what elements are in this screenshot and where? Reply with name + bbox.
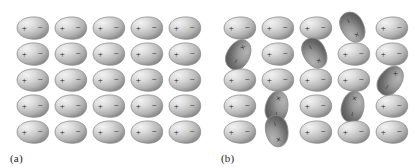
dipole-a-r3c1: +− — [53, 94, 87, 118]
figure-dipole-alignment: +−+−+−+−+−+−+−+−+−+−+−+−+−+−+−+−+−+−+−+−… — [0, 0, 415, 168]
dipole-grid-b: +−+−+−×−+−×−+−×−+−+−+−+−+−+−×−+−×−+−×−+−… — [207, 0, 415, 143]
dipole-positive-charge-sign: + — [22, 101, 27, 111]
dipole-positive-charge-sign: + — [305, 127, 310, 137]
dipole-b-r2c3: +− — [336, 68, 370, 92]
dipole-negative-charge-sign: − — [245, 100, 250, 110]
dipole-b-r1c0: ×− — [222, 42, 256, 66]
dipole-b-r3c3: ×− — [336, 94, 370, 118]
panel-b-random-dipoles: +−+−+−×−+−×−+−×−+−+−+−+−+−+−×−+−×−+−×−+−… — [207, 0, 415, 168]
dipole-b-r1c4: +− — [374, 42, 408, 66]
dipole-positive-charge-sign: + — [98, 127, 103, 137]
dipole-negative-charge-sign: − — [76, 126, 81, 136]
dipole-b-r3c0: +− — [222, 94, 256, 118]
dipole-a-r2c1: +− — [53, 68, 87, 92]
dipole-positive-charge-sign: + — [343, 49, 348, 59]
dipole-negative-charge-sign: − — [38, 100, 43, 110]
dipole-positive-charge-sign: + — [305, 23, 310, 33]
dipole-b-r0c2: +− — [298, 16, 332, 40]
dipole-negative-charge-sign: − — [190, 74, 195, 84]
dipole-a-r0c0: +− — [15, 16, 49, 40]
dipole-positive-charge-sign: + — [267, 49, 272, 59]
dipole-a-r4c1: +− — [53, 120, 87, 144]
dipole-positive-charge-sign: + — [174, 101, 179, 111]
dipole-positive-charge-sign: + — [98, 75, 103, 85]
dipole-a-r3c0: +− — [15, 94, 49, 118]
dipole-positive-charge-sign: + — [60, 127, 65, 137]
dipole-negative-charge-sign: − — [359, 74, 364, 84]
dipole-positive-charge-sign: + — [174, 49, 179, 59]
panel-label-a: (a) — [10, 152, 23, 164]
dipole-b-r4c0: +− — [222, 120, 256, 144]
dipole-negative-charge-sign: − — [397, 48, 402, 58]
dipole-b-r3c4: +− — [374, 94, 408, 118]
dipole-a-r1c1: +− — [53, 42, 87, 66]
dipole-a-r2c4: +− — [167, 68, 201, 92]
dipole-negative-charge-sign: − — [283, 48, 288, 58]
dipole-grid-a: +−+−+−+−+−+−+−+−+−+−+−+−+−+−+−+−+−+−+−+−… — [0, 0, 207, 143]
dipole-negative-charge-sign: − — [190, 126, 195, 136]
dipole-a-r2c0: +− — [15, 68, 49, 92]
dipole-negative-charge-sign: − — [114, 100, 119, 110]
dipole-negative-charge-sign: − — [114, 22, 119, 32]
dipole-b-r0c3: ×− — [336, 16, 370, 40]
dipole-a-r4c2: +− — [91, 120, 125, 144]
dipole-positive-charge-sign: + — [136, 127, 141, 137]
dipole-negative-charge-sign: − — [76, 100, 81, 110]
dipole-b-r1c1: +− — [260, 42, 294, 66]
dipole-a-r0c2: +− — [91, 16, 125, 40]
dipole-positive-charge-sign: + — [381, 101, 386, 111]
dipole-b-r3c2: +− — [298, 94, 332, 118]
dipole-negative-charge-sign: − — [114, 48, 119, 58]
dipole-positive-charge-sign: + — [343, 127, 348, 137]
dipole-positive-charge-sign: + — [136, 101, 141, 111]
panel-a-aligned-dipoles: +−+−+−+−+−+−+−+−+−+−+−+−+−+−+−+−+−+−+−+−… — [0, 0, 207, 168]
dipole-b-r2c2: +− — [298, 68, 332, 92]
dipole-negative-charge-sign: − — [397, 126, 402, 136]
dipole-negative-charge-sign: − — [38, 48, 43, 58]
dipole-positive-charge-sign: + — [136, 49, 141, 59]
dipole-b-r4c3: +− — [336, 120, 370, 144]
dipole-negative-charge-sign: − — [76, 74, 81, 84]
dipole-negative-charge-sign: − — [152, 74, 157, 84]
dipole-positive-charge-sign: + — [22, 23, 27, 33]
dipole-negative-charge-sign: − — [321, 22, 326, 32]
dipole-positive-charge-sign: + — [60, 75, 65, 85]
dipole-positive-charge-sign: + — [136, 75, 141, 85]
dipole-positive-charge-sign: + — [98, 101, 103, 111]
dipole-positive-charge-sign: + — [174, 127, 179, 137]
dipole-positive-charge-sign: + — [305, 75, 310, 85]
dipole-negative-charge-sign: − — [76, 48, 81, 58]
dipole-negative-charge-sign: − — [76, 22, 81, 32]
dipole-negative-charge-sign: − — [114, 126, 119, 136]
dipole-positive-charge-sign: + — [229, 75, 234, 85]
dipole-b-r4c2: +− — [298, 120, 332, 144]
dipole-negative-charge-sign: − — [359, 126, 364, 136]
dipole-negative-charge-sign: − — [245, 74, 250, 84]
dipole-negative-charge-sign: − — [190, 100, 195, 110]
dipole-positive-charge-sign: + — [229, 127, 234, 137]
dipole-positive-charge-sign: + — [174, 23, 179, 33]
dipole-positive-charge-sign: + — [60, 23, 65, 33]
dipole-positive-charge-sign: + — [22, 49, 27, 59]
dipole-b-r4c1: ×− — [260, 120, 294, 144]
dipole-negative-charge-sign: − — [397, 100, 402, 110]
dipole-body — [335, 8, 370, 47]
dipole-negative-charge-sign: − — [190, 22, 195, 32]
panel-label-b: (b) — [221, 152, 234, 164]
dipole-positive-charge-sign: + — [229, 23, 234, 33]
dipole-b-r0c1: +− — [260, 16, 294, 40]
dipole-a-r3c3: +− — [129, 94, 163, 118]
dipole-a-r0c3: +− — [129, 16, 163, 40]
dipole-a-r1c2: +− — [91, 42, 125, 66]
dipole-negative-charge-sign: − — [359, 48, 364, 58]
dipole-a-r0c4: +− — [167, 16, 201, 40]
dipole-b-r3c1: ×− — [260, 94, 294, 118]
dipole-positive-charge-sign: + — [22, 127, 27, 137]
dipole-positive-charge-sign: + — [60, 101, 65, 111]
dipole-positive-charge-sign: + — [229, 101, 234, 111]
dipole-a-r4c3: +− — [129, 120, 163, 144]
dipole-a-r2c2: +− — [91, 68, 125, 92]
dipole-positive-charge-sign: + — [267, 75, 272, 85]
dipole-negative-charge-sign: − — [321, 126, 326, 136]
dipole-negative-charge-sign: − — [38, 126, 43, 136]
